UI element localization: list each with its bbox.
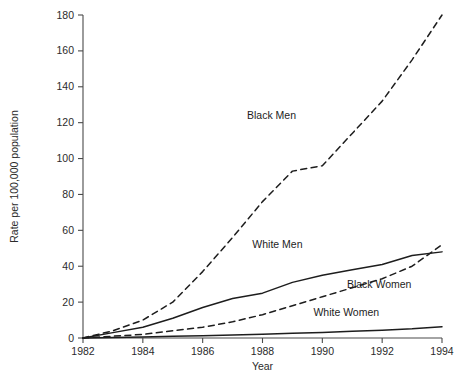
x-tick-label: 1986 <box>191 345 215 357</box>
y-tick-label: 80 <box>62 188 74 200</box>
x-tick-label: 1994 <box>430 345 454 357</box>
y-tick-label: 180 <box>56 9 74 21</box>
x-tick-label: 1988 <box>251 345 275 357</box>
chart-container: 0204060801001201401601801982198419861988… <box>0 0 458 379</box>
y-tick-label: 60 <box>62 224 74 236</box>
series-label-white-women: White Women <box>313 306 379 318</box>
y-tick-label: 20 <box>62 296 74 308</box>
y-axis-title: Rate per 100,000 population <box>8 110 20 243</box>
x-tick-label: 1992 <box>370 345 394 357</box>
series-annotations: Black MenWhite MenBlack WomenWhite Women <box>247 109 412 318</box>
line-chart: 0204060801001201401601801982198419861988… <box>0 0 458 379</box>
x-axis-title: Year <box>252 360 274 372</box>
x-tick-label: 1984 <box>131 345 155 357</box>
axis-titles: YearRate per 100,000 population <box>8 110 274 372</box>
series-line-black-women <box>83 245 442 338</box>
y-tick-label: 120 <box>56 116 74 128</box>
y-tick-label: 140 <box>56 80 74 92</box>
series-label-black-men: Black Men <box>247 109 296 121</box>
series-line-white-men <box>83 252 442 338</box>
series-label-black-women: Black Women <box>347 278 412 290</box>
axes-group: 0204060801001201401601801982198419861988… <box>56 9 453 357</box>
y-tick-label: 100 <box>56 152 74 164</box>
x-tick-label: 1990 <box>311 345 335 357</box>
x-tick-label: 1982 <box>71 345 95 357</box>
series-label-white-men: White Men <box>252 238 302 250</box>
y-tick-label: 40 <box>62 260 74 272</box>
y-tick-label: 0 <box>68 332 74 344</box>
y-tick-label: 160 <box>56 44 74 56</box>
